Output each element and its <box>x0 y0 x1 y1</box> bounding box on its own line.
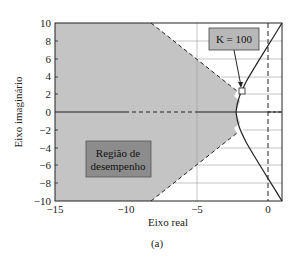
y-axis-label: Eixo imaginário <box>12 76 24 148</box>
svg-text:−5: −5 <box>191 203 203 215</box>
svg-text:0: 0 <box>265 203 271 215</box>
svg-text:−8: −8 <box>39 177 51 189</box>
svg-text:8: 8 <box>46 35 52 47</box>
root-locus-chart: K = 100 Região de desempenho 10 8 6 4 2 … <box>0 0 299 265</box>
svg-text:0: 0 <box>46 106 52 118</box>
svg-text:−6: −6 <box>39 159 51 171</box>
y-tick-labels: 10 8 6 4 2 0 −2 −4 −6 −8 −10 <box>34 17 52 207</box>
x-axis-label: Eixo real <box>148 216 188 228</box>
svg-text:6: 6 <box>46 53 52 65</box>
svg-text:−10: −10 <box>117 203 135 215</box>
svg-text:−15: −15 <box>46 203 64 215</box>
svg-text:10: 10 <box>40 17 52 29</box>
figure-caption: (a) <box>151 237 164 250</box>
svg-text:−2: −2 <box>39 124 51 136</box>
svg-text:4: 4 <box>46 70 52 82</box>
region-label-line2: desempenho <box>91 160 146 172</box>
svg-text:2: 2 <box>46 88 52 100</box>
svg-text:−4: −4 <box>39 142 51 154</box>
region-label-line1: Região de <box>96 147 140 159</box>
x-tick-labels: −15 −10 −5 0 <box>46 203 271 215</box>
k-point-marker <box>239 88 245 94</box>
k-annotation-label: K = 100 <box>216 33 253 45</box>
